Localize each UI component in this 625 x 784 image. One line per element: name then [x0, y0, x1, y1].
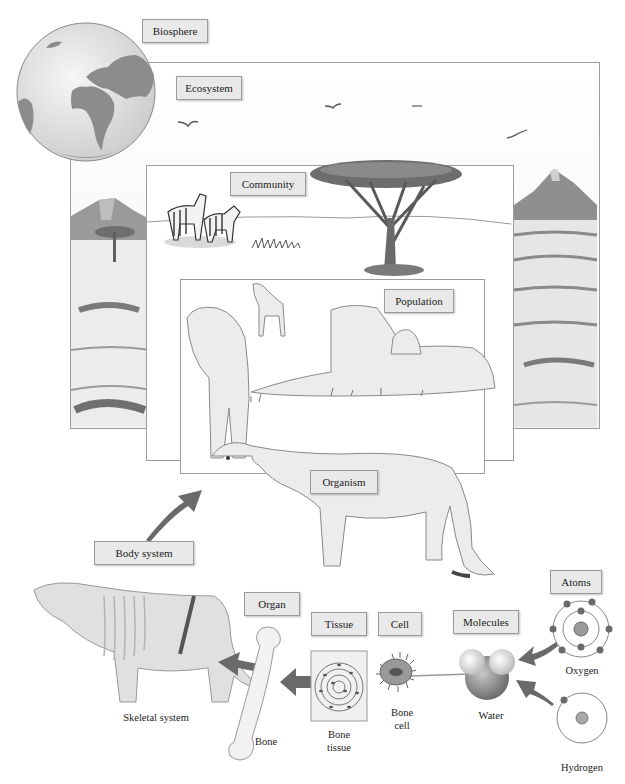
label-community: Community [230, 172, 306, 196]
ecosystem-right-landscape [514, 165, 597, 427]
bird-icon [412, 104, 422, 109]
label-cell: Cell [378, 612, 422, 636]
label-organism: Organism [310, 470, 378, 494]
caption-bone-tissue: Bone tissue [312, 728, 366, 754]
skeleton-lion-illustration [14, 580, 249, 710]
label-atoms: Atoms [550, 570, 602, 594]
caption-oxygen: Oxygen [554, 664, 610, 677]
ecosystem-left-landscape [71, 190, 151, 426]
arrow-tissue-to-organ [280, 668, 314, 698]
caption-water: Water [466, 709, 516, 722]
bird-icon [325, 102, 341, 110]
caption-bone-cell: Bone cell [382, 706, 422, 732]
globe-icon [16, 22, 156, 162]
arrow-hydrogen-to-water [516, 676, 556, 706]
label-ecosystem: Ecosystem [176, 76, 242, 100]
bird-icon [178, 118, 198, 130]
label-biosphere: Biosphere [142, 19, 208, 43]
label-body-system: Body system [94, 541, 194, 565]
label-molecules: Molecules [453, 610, 519, 634]
grass-tuft [252, 236, 302, 250]
caption-bone: Bone [246, 735, 286, 748]
label-population: Population [384, 289, 454, 313]
hydrogen-atom-icon [554, 690, 610, 746]
caption-bone-tissue-line2: tissue [312, 741, 366, 754]
bone-tissue-illustration [311, 651, 367, 721]
arrow-body-to-organism [140, 486, 210, 546]
caption-skeletal-system: Skeletal system [96, 711, 216, 724]
oxygen-atom-icon [548, 596, 614, 662]
organism-lion-illustration [200, 436, 470, 586]
bird-icon [507, 130, 527, 140]
label-tissue: Tissue [311, 612, 367, 636]
caption-hydrogen: Hydrogen [550, 761, 614, 774]
caption-bone-tissue-line1: Bone [312, 728, 366, 741]
zebras-illustration [162, 190, 242, 250]
water-molecule-icon [454, 646, 520, 702]
acacia-tree-illustration [306, 158, 466, 278]
caption-bone-cell-line2: cell [382, 719, 422, 732]
label-organ: Organ [244, 592, 300, 616]
caption-bone-cell-line1: Bone [382, 706, 422, 719]
